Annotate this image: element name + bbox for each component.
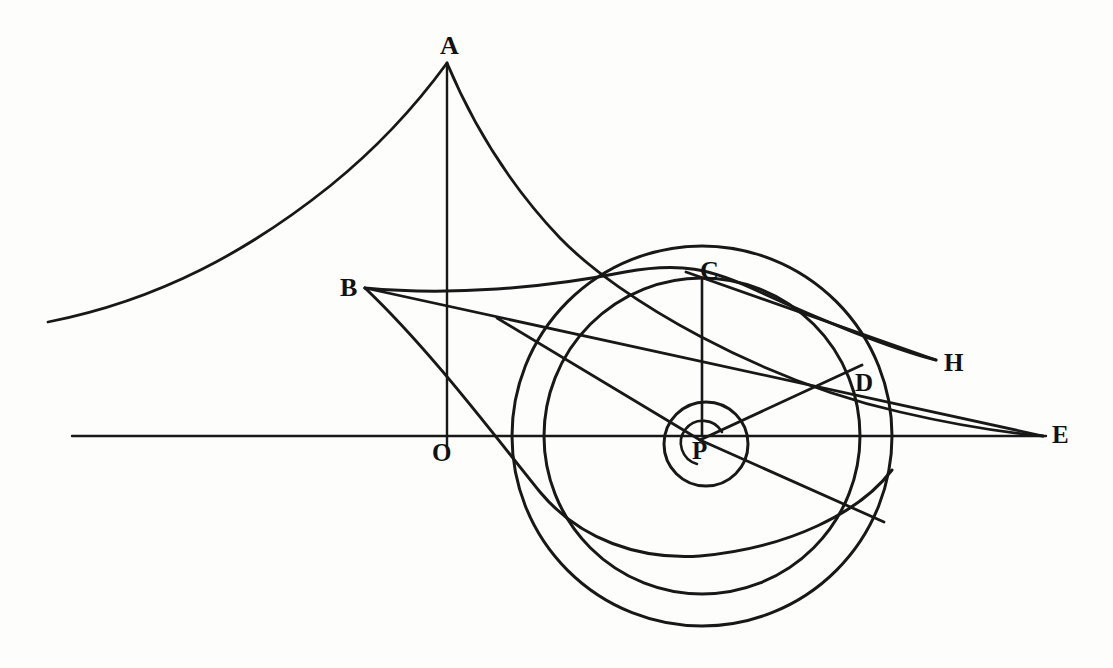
figure-root: A B C D E H O P — [0, 0, 1113, 668]
point-label-H: H — [944, 350, 963, 375]
geometry-figure — [0, 0, 1113, 668]
point-label-C: C — [700, 258, 719, 284]
line-P-to-D — [700, 365, 862, 440]
point-label-P: P — [692, 438, 707, 463]
curve-left-tail-to-A — [48, 63, 447, 322]
point-label-B: B — [340, 275, 357, 301]
point-label-D: D — [855, 370, 873, 395]
line-B-to-E — [365, 288, 1043, 436]
line-through-P-upper-left — [497, 318, 700, 440]
point-label-A: A — [440, 33, 459, 59]
curve-B-to-H — [365, 267, 936, 360]
point-label-E: E — [1052, 422, 1069, 447]
point-label-O: O — [432, 440, 451, 465]
curve-B-descending — [365, 288, 892, 556]
